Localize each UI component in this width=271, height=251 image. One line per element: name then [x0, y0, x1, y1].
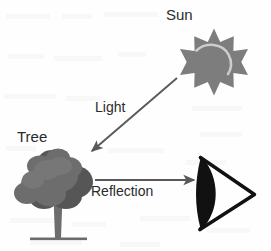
label-reflection: Reflection	[91, 184, 153, 198]
diagram-canvas: Sun Tree Light Reflection	[0, 0, 271, 251]
diagram-graphics	[0, 0, 271, 251]
tree-ground-line	[30, 238, 87, 241]
label-tree: Tree	[17, 129, 47, 144]
sun-icon	[180, 29, 248, 96]
sun-star-shape	[180, 29, 248, 96]
label-light: Light	[95, 100, 125, 114]
eye-icon	[196, 158, 255, 230]
eye-pupil	[196, 159, 214, 229]
label-sun: Sun	[166, 7, 193, 22]
